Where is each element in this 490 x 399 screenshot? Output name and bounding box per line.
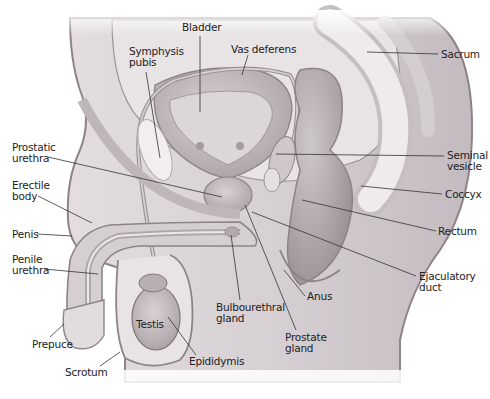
label-testis: Testis [136,319,164,330]
label-symphysis-pubis: Symphysis pubis [129,46,184,68]
label-erectile-body: Erectile body [12,180,50,202]
label-prostate-gland: Prostate gland [285,332,327,354]
label-epididymis: Epididymis [189,356,244,367]
label-seminal-vesicle: Seminal vesicle [447,150,488,172]
label-scrotum: Scrotum [65,367,108,378]
label-vas-deferens: Vas deferens [231,44,296,55]
label-coccyx: Coccyx [445,189,482,200]
anatomy-illustration [0,0,490,399]
label-sacrum: Sacrum [441,49,480,60]
label-bladder: Bladder [182,22,221,33]
label-penile-urethra: Penile urethra [12,254,49,276]
bulbourethral-gland [225,227,239,237]
label-ejaculatory-duct: Ejaculatory duct [419,271,476,293]
label-anus: Anus [307,291,332,302]
label-prostatic-urethra: Prostatic urethra [12,142,56,164]
label-prepuce: Prepuce [32,339,73,350]
epididymis [139,274,167,292]
scrotum [116,255,192,366]
label-bulbourethral-gland: Bulbourethral gland [216,302,285,324]
label-penis: Penis [12,229,38,240]
label-rectum: Rectum [438,226,477,237]
